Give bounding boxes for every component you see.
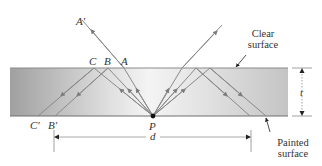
painted-surface-label: Painted surface	[266, 137, 320, 159]
painted-surface-leader	[266, 118, 270, 132]
painted-surface-text-2: surface	[266, 148, 320, 159]
label-a-prime: A′	[76, 16, 85, 27]
clear-surface-text-1: Clear	[238, 28, 288, 39]
label-a: A	[121, 56, 128, 67]
label-t: t	[300, 87, 303, 98]
label-b-prime: B′	[48, 120, 57, 131]
label-d: d	[150, 131, 156, 142]
clear-surface-label: Clear surface	[238, 28, 288, 50]
painted-surface-text-1: Painted	[266, 137, 320, 148]
clear-surface-text-2: surface	[238, 39, 288, 50]
point-p	[151, 114, 156, 119]
label-c: C	[89, 56, 96, 67]
label-c-prime: C′	[30, 120, 40, 131]
label-b: B	[104, 56, 111, 67]
clear-surface-leader	[236, 55, 246, 67]
